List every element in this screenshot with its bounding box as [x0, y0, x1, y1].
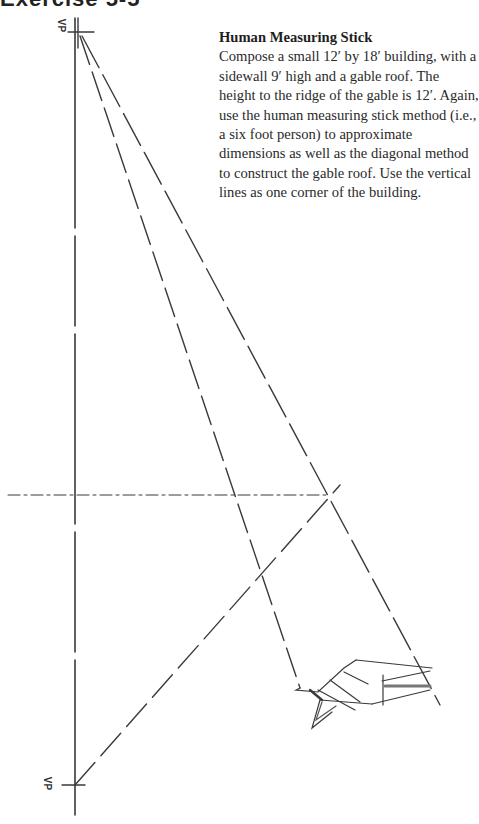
- bottom-vp-label: VP: [42, 777, 53, 790]
- exercise-body: Compose a small 12′ by 18′ building, wit…: [219, 47, 479, 202]
- diagonal-line: [75, 485, 340, 785]
- top-vp-label: VP: [56, 19, 67, 32]
- exercise-title: Human Measuring Stick: [219, 28, 479, 47]
- exercise-text: Human Measuring Stick Compose a small 12…: [219, 28, 479, 203]
- hand-sketch: [296, 660, 432, 728]
